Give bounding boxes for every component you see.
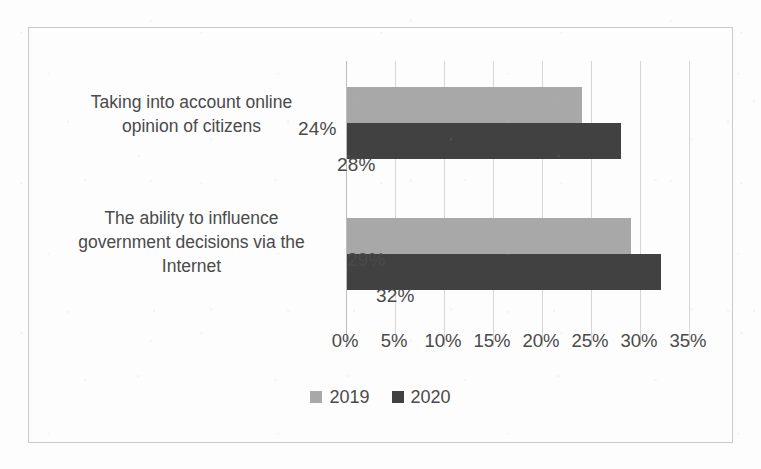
x-tick-label: 20%	[522, 330, 559, 352]
value-label-2020-cat1: 32%	[376, 285, 415, 307]
category-label-line: Internet	[49, 254, 334, 278]
bar-2019-cat1[interactable]	[347, 218, 631, 254]
chart-legend: 2019 2020	[0, 388, 761, 406]
gridline	[689, 61, 690, 346]
x-tick-label: 15%	[473, 330, 510, 352]
gridline	[591, 61, 592, 346]
category-label-line: Taking into account online	[49, 90, 334, 114]
legend-label: 2020	[411, 388, 451, 406]
legend-swatch-icon	[392, 391, 404, 403]
bar-2020-cat0[interactable]	[347, 123, 621, 159]
value-label-2019-cat0: 24%	[298, 118, 337, 140]
chart-frame: Taking into account online opinion of ci…	[28, 27, 733, 443]
x-tick-label: 25%	[571, 330, 608, 352]
category-label-line: government decisions via the	[49, 230, 334, 254]
category-label-influence-government: The ability to influence government deci…	[49, 206, 334, 278]
legend-item-2019[interactable]: 2019	[310, 388, 369, 406]
bar-2019-cat0[interactable]	[347, 87, 582, 123]
x-tick-label: 35%	[669, 330, 706, 352]
value-label-2020-cat0: 28%	[337, 154, 376, 176]
chart-screenshot: Taking into account online opinion of ci…	[0, 0, 761, 469]
gridline	[640, 61, 641, 346]
x-tick-label: 10%	[424, 330, 461, 352]
value-label-2019-cat1: 29%	[347, 249, 386, 271]
category-label-line: opinion of citizens	[49, 114, 334, 138]
legend-item-2020[interactable]: 2020	[392, 388, 451, 406]
category-label-line: The ability to influence	[49, 206, 334, 230]
category-label-online-opinion: Taking into account online opinion of ci…	[49, 90, 334, 138]
legend-swatch-icon	[310, 391, 322, 403]
x-tick-label: 0%	[332, 330, 359, 352]
x-tick-label: 5%	[381, 330, 408, 352]
legend-label: 2019	[329, 388, 369, 406]
x-tick-label: 30%	[620, 330, 657, 352]
x-axis-tick-labels: 0%5%10%15%20%25%30%35%	[330, 330, 702, 360]
